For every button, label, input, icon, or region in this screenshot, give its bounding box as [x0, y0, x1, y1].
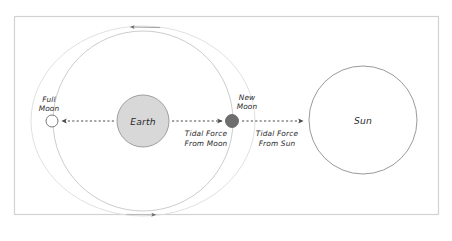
- sun-label: Sun: [354, 115, 372, 126]
- tidal-force-from-sun-label-line1: Tidal Force: [256, 129, 299, 138]
- new-moon-label-line2: Moon: [237, 102, 258, 111]
- full-moon-label-line2: Moon: [39, 104, 60, 113]
- full-moon-label-line1: Full: [42, 95, 56, 104]
- full-moon-body: [46, 115, 58, 127]
- tidal-force-from-moon-label-line2: From Moon: [185, 139, 228, 148]
- new-moon-body: [226, 115, 239, 128]
- diagram-canvas: Sun Earth Full Moon New Moon Tidal Force…: [0, 0, 452, 241]
- tidal-force-diagram: Sun Earth Full Moon New Moon Tidal Force…: [0, 0, 452, 241]
- tidal-force-from-sun-label-line2: From Sun: [259, 139, 296, 148]
- new-moon-label-line1: New: [239, 93, 256, 102]
- earth-label: Earth: [130, 116, 156, 127]
- tidal-force-from-moon-label-line1: Tidal Force: [185, 129, 228, 138]
- orbit-direction-arrow-top: [132, 27, 160, 28]
